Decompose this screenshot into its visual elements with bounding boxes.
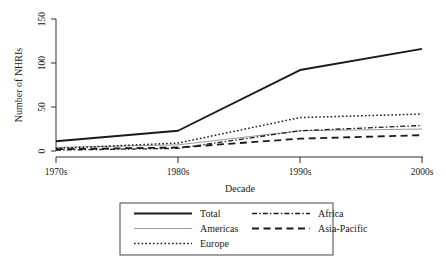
line-chart: 150 100 50 0 1970s 1980s 1990s 2000s Num… [0,0,446,262]
chart-container: 150 100 50 0 1970s 1980s 1990s 2000s Num… [0,0,446,262]
x-tick-label-1970s: 1970s [45,167,68,177]
series-line-total [56,49,422,141]
legend-label-africa: Africa [318,208,344,219]
y-axis-ticks [51,19,56,151]
legend-label-europe: Europe [200,238,229,249]
y-tick-label-150: 150 [37,12,47,27]
y-tick-label-0: 0 [37,148,47,153]
x-axis-ticks [56,157,422,163]
x-axis-tick-labels: 1970s 1980s 1990s 2000s [45,167,434,177]
legend-label-americas: Americas [200,223,238,234]
x-axis-title: Decade [225,183,256,194]
legend-label-total: Total [200,208,221,219]
x-tick-label-1980s: 1980s [167,167,190,177]
x-tick-label-1990s: 1990s [289,167,312,177]
y-tick-label-50: 50 [37,102,47,112]
legend-label-asia-pacific: Asia-Pacific [318,223,368,234]
series-line-europe [56,114,422,148]
y-tick-label-100: 100 [37,56,47,71]
series-line-americas [56,129,422,147]
y-axis-title: Number of NHRIs [13,48,24,123]
x-tick-label-2000s: 2000s [411,167,434,177]
y-axis-tick-labels: 150 100 50 0 [37,12,47,154]
series-group [56,49,422,150]
